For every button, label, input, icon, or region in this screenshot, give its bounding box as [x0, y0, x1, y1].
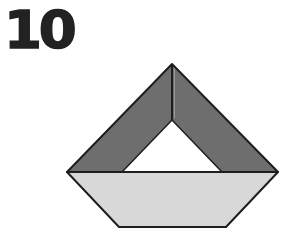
hull-light-fold — [67, 172, 278, 227]
origami-boat-diagram — [0, 0, 304, 239]
